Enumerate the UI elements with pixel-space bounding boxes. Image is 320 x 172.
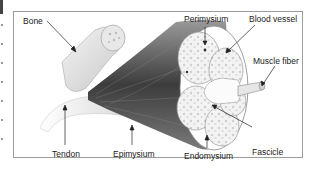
label-bone: Bone (23, 17, 43, 26)
label-blood-vessel: Blood vessel (249, 15, 297, 24)
label-fascicle: Fascicle (252, 148, 283, 157)
label-epimysium: Epimysium (113, 150, 155, 159)
label-tendon: Tendon (52, 150, 80, 159)
label-perimysium: Perimysium (184, 15, 228, 24)
label-muscle-fiber: Muscle fiber (253, 57, 299, 66)
cross-section (177, 26, 265, 150)
label-endomysium: Endomysium (184, 152, 233, 161)
